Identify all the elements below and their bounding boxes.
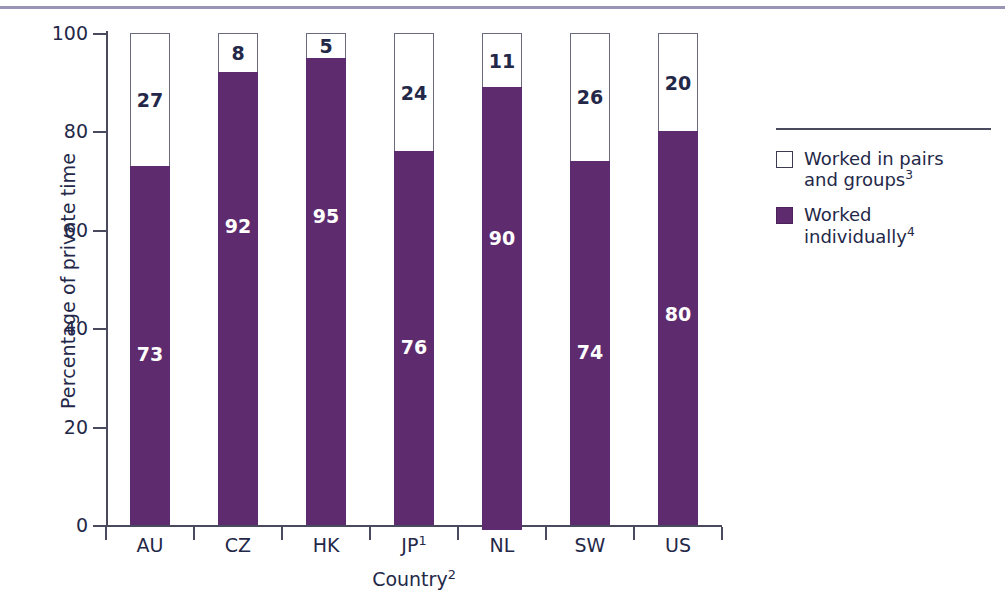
legend-item[interactable]: Worked in pairsand groups3 (776, 148, 991, 190)
y-axis-tick-mark (93, 328, 106, 330)
legend-item[interactable]: Workedindividually4 (776, 204, 991, 246)
legend-label: Workedindividually4 (804, 204, 915, 246)
y-axis-tick-mark (93, 427, 106, 429)
table-row[interactable]: 2476 (394, 33, 434, 525)
y-axis-tick-label: 60 (64, 219, 88, 241)
bar-segment-pairs-and-groups[interactable]: 5 (306, 33, 346, 58)
bar-value-label-pairs-and-groups: 8 (231, 44, 244, 63)
y-axis-tick-label: 20 (64, 416, 88, 438)
bar-segment-individually[interactable]: 92 (218, 72, 258, 525)
top-divider-rule (0, 6, 1005, 9)
stacked-bar-chart-figure: Percentage of private time 020406080100 … (0, 0, 1005, 603)
footnote-marker: 3 (905, 168, 913, 182)
bar-segment-pairs-and-groups[interactable]: 26 (570, 33, 610, 161)
bar-value-label-pairs-and-groups: 20 (665, 73, 691, 92)
bar-segment-individually[interactable]: 95 (306, 58, 346, 525)
x-axis-category-label: US (628, 534, 728, 556)
y-axis-tick-label: 40 (64, 317, 88, 339)
bar-value-label-pairs-and-groups: 5 (319, 36, 332, 55)
bar-value-label-individually: 95 (313, 207, 339, 226)
bar-segment-pairs-and-groups[interactable]: 8 (218, 33, 258, 72)
y-axis-line (106, 31, 108, 527)
table-row[interactable]: 1190 (482, 33, 522, 525)
bar-value-label-pairs-and-groups: 24 (401, 83, 427, 102)
x-axis-line (106, 525, 722, 527)
footnote-marker: 1 (418, 533, 426, 548)
footnote-marker: 2 (448, 567, 456, 582)
table-row[interactable]: 2080 (658, 33, 698, 525)
bar-segment-individually[interactable]: 73 (130, 166, 170, 525)
legend-swatch-white (776, 151, 793, 168)
x-axis-title: Country2 (106, 568, 722, 590)
table-row[interactable]: 2773 (130, 33, 170, 525)
bar-value-label-pairs-and-groups: 11 (489, 51, 515, 70)
x-axis-category-label: AU (100, 534, 200, 556)
bar-segment-individually[interactable]: 80 (658, 131, 698, 525)
y-axis-tick-mark (93, 131, 106, 133)
y-axis-tick-label: 80 (64, 120, 88, 142)
bar-value-label-individually: 92 (225, 217, 251, 236)
x-axis-category-label: NL (452, 534, 552, 556)
bar-value-label-individually: 74 (577, 343, 603, 362)
legend-swatch-purple (776, 207, 793, 224)
legend: Worked in pairsand groups3Workedindividu… (776, 128, 991, 261)
bar-segment-pairs-and-groups[interactable]: 20 (658, 33, 698, 131)
table-row[interactable]: 892 (218, 33, 258, 525)
legend-divider-rule (776, 128, 991, 130)
table-row[interactable]: 595 (306, 33, 346, 525)
y-axis-tick-mark (93, 230, 106, 232)
bar-segment-pairs-and-groups[interactable]: 24 (394, 33, 434, 151)
bar-segment-individually[interactable]: 90 (482, 87, 522, 530)
bar-segment-individually[interactable]: 76 (394, 151, 434, 525)
bar-value-label-individually: 90 (489, 229, 515, 248)
legend-label: Worked in pairsand groups3 (804, 148, 944, 190)
bar-segment-pairs-and-groups[interactable]: 11 (482, 33, 522, 87)
y-axis-tick-mark (93, 33, 106, 35)
x-axis-category-label: HK (276, 534, 376, 556)
footnote-marker: 4 (907, 225, 915, 239)
bar-value-label-individually: 80 (665, 305, 691, 324)
x-axis-category-label: JP1 (364, 534, 464, 556)
legend-items: Worked in pairsand groups3Workedindividu… (776, 148, 991, 247)
bar-value-label-pairs-and-groups: 26 (577, 88, 603, 107)
bar-value-label-individually: 73 (137, 345, 163, 364)
x-axis-category-label: SW (540, 534, 640, 556)
bar-value-label-pairs-and-groups: 27 (137, 90, 163, 109)
bar-segment-individually[interactable]: 74 (570, 161, 610, 525)
y-axis-tick-label: 100 (52, 22, 88, 44)
x-axis-category-label: CZ (188, 534, 288, 556)
table-row[interactable]: 2674 (570, 33, 610, 525)
y-axis-ticks: 020406080100 (0, 0, 106, 603)
y-axis-tick-label: 0 (76, 514, 88, 536)
bar-segment-pairs-and-groups[interactable]: 27 (130, 33, 170, 166)
bar-value-label-individually: 76 (401, 338, 427, 357)
